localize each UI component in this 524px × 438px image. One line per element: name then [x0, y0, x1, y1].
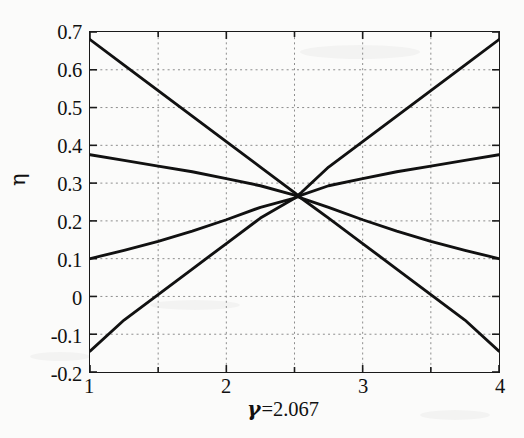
- y-tick-label: 0.4: [4, 136, 82, 157]
- y-tick-label: 0.1: [4, 250, 82, 271]
- gamma-symbol: γ: [247, 397, 262, 421]
- x-tick-label: 3: [343, 376, 383, 397]
- y-tick-label: 0.3: [4, 174, 82, 195]
- x-axis-label: γ=2.067: [0, 399, 524, 420]
- x-axis-label-value: =2.067: [261, 398, 319, 420]
- y-tick-label: 0.5: [4, 98, 82, 119]
- plot-area: [89, 31, 500, 373]
- grid-lines: [90, 32, 499, 372]
- x-tick-label: 4: [480, 376, 520, 397]
- y-tick-label: 0.6: [4, 60, 82, 81]
- data-series-group: [90, 40, 499, 352]
- axis-tick-marks: [90, 32, 499, 372]
- y-tick-label: 0.2: [4, 212, 82, 233]
- y-tick-label: 0: [4, 288, 82, 309]
- y-tick-label: -0.1: [4, 326, 82, 347]
- y-axis-tick-labels: 0.7 0.6 0.5 0.4 0.3 0.2 0.1 0 -0.1 -0.2: [0, 31, 82, 373]
- x-tick-label: 2: [206, 376, 246, 397]
- x-tick-label: 1: [69, 376, 109, 397]
- chart-figure: η 0.7 0.6 0.5 0.4 0.3 0.2 0.1 0 -0.1 -0.…: [0, 0, 524, 438]
- y-tick-label: 0.7: [4, 22, 82, 43]
- plot-canvas: [90, 32, 499, 372]
